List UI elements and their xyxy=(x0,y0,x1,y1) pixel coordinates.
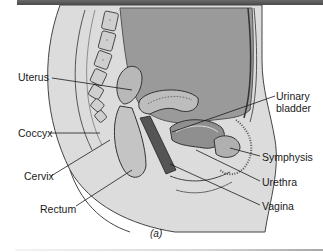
label-uterus: Uterus xyxy=(18,71,49,83)
label-vagina: Vagina xyxy=(262,200,294,212)
label-urethra: Urethra xyxy=(262,176,297,188)
label-coccyx: Coccyx xyxy=(18,127,52,139)
label-rectum: Rectum xyxy=(40,203,76,215)
label-cervix: Cervix xyxy=(24,170,54,182)
figure-caption: (a) xyxy=(150,228,162,239)
bottom-border-line xyxy=(15,249,323,251)
label-symphysis: Symphysis xyxy=(262,151,313,163)
label-urinary-bladder-line1: Urinary xyxy=(276,90,310,102)
label-urinary-bladder-line2: bladder xyxy=(276,102,311,114)
